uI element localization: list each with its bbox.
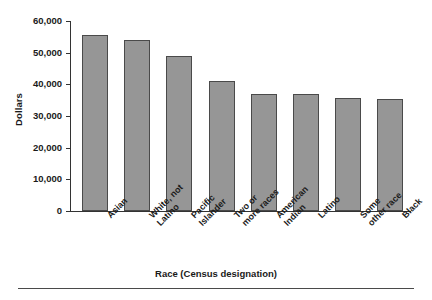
bar [335,98,361,211]
y-axis-tick-mark [66,148,70,149]
x-axis-tick-label: Someother race [358,213,373,228]
y-axis-tick-mark [66,53,70,54]
x-axis-tick-label-line: Latino [155,220,162,227]
bar [124,40,150,211]
y-axis-tick-label: 10,000 [4,174,62,184]
x-axis-tick-label: PacificIslander [189,213,204,228]
x-axis-title: Race (Census designation) [0,268,432,279]
x-axis-tick-label: Latino [316,213,323,220]
x-axis-tick-label-line: Latino [316,213,323,220]
x-axis-tick-label-line: Pacific [189,213,196,220]
x-axis-tick-label-line: Some [358,213,365,220]
x-axis-tick-label-line: Asian [105,213,112,220]
bar [82,35,108,211]
footer-rule [18,288,414,289]
y-axis-tick-label: 0 [4,206,62,216]
y-axis-tick-label: 40,000 [4,79,62,89]
x-axis-tick-label-line: Black [400,213,407,220]
y-axis-tick-mark [66,179,70,180]
bar-chart-figure: Dollars 010,00020,00030,00040,00050,0006… [0,0,432,300]
bar [209,81,235,211]
y-axis-tick-label: 50,000 [4,48,62,58]
x-axis-tick-label-line: other race [366,220,373,227]
y-axis-tick-mark [66,21,70,22]
y-axis-tick-label: 20,000 [4,143,62,153]
x-axis-tick-label: Two ormore races [232,213,247,228]
y-axis-tick-label: 30,000 [4,111,62,121]
x-axis-tick-label-line: Two or [232,213,239,220]
x-axis-tick-label-line: more races [239,220,246,227]
y-axis-tick-mark [66,116,70,117]
y-axis-tick-label: 60,000 [4,16,62,26]
x-axis-tick-label-line: Indian [281,220,288,227]
x-axis-tick-labels: AsianWhite, notLatinoPacificIslanderTwo … [70,213,411,275]
x-axis-tick-label-line: White, not [147,213,154,220]
x-axis-tick-label: Black [400,213,407,220]
x-axis-tick-label: White, notLatino [147,213,162,228]
plot-area [70,21,411,211]
y-axis-tick-mark [66,84,70,85]
x-axis-tick-label-line: American [274,213,281,220]
x-axis-tick-label: Asian [105,213,112,220]
x-axis-tick-label-line: Islander [197,220,204,227]
x-axis-tick-label: AmericanIndian [274,213,289,228]
y-axis-tick-mark [66,211,70,212]
y-axis-tick-labels: 010,00020,00030,00040,00050,00060,000 [4,0,62,300]
